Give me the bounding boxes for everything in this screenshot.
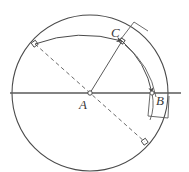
endpoint-marker-b	[150, 91, 154, 95]
arc-upper-left-to-c	[35, 35, 122, 44]
arc-c-to-b	[122, 41, 152, 93]
radius-line-ac	[90, 41, 122, 93]
geometry-canvas	[0, 0, 189, 172]
point-label-b: B	[156, 94, 164, 107]
point-label-c: C	[111, 26, 120, 39]
geometry-figure: A B C	[0, 0, 189, 172]
center-point-a	[88, 91, 92, 95]
point-label-a: A	[79, 98, 87, 111]
